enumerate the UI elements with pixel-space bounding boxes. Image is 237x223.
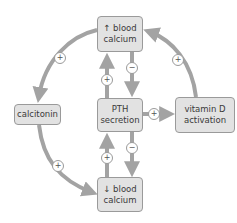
plus-badge-low-calcium-to-pth: + [101,152,113,164]
plus-icon: + [175,56,182,64]
node-low-blood-calcium-line2: calcium [104,195,137,206]
minus-icon: − [129,144,136,152]
node-vitamin-d-line1: vitamin D [184,104,225,115]
arrow-high-calcium-to-calcitonin [39,30,97,96]
plus-icon: + [151,110,158,118]
node-vitamin-d-line2: activation [184,115,226,126]
plus-badge-high-calcium-to-calcitonin: + [54,52,66,64]
plus-icon: + [55,162,62,170]
node-low-blood-calcium: ↓ blood calcium [97,177,143,212]
node-calcitonin-label: calcitonin [17,109,58,120]
arrow-vitamin-d-to-high-calcium [150,32,196,97]
plus-badge-calcitonin-to-low-calcium: + [52,160,64,172]
plus-badge-vitamin-d-to-high-calcium: + [172,54,184,66]
minus-icon: − [129,64,136,72]
node-pth-line2: secretion [100,115,139,126]
plus-icon: + [57,54,64,62]
arrow-calcitonin-to-low-calcium [39,125,91,192]
node-high-blood-calcium-line2: calcium [104,34,137,45]
node-high-blood-calcium: ↑ blood calcium [97,16,143,52]
minus-badge-high-calcium-to-pth: − [126,62,138,74]
node-high-blood-calcium-line1: ↑ blood [103,23,136,34]
minus-badge-pth-to-low-calcium: − [126,142,138,154]
node-pth-line1: PTH [112,104,129,115]
plus-badge-pth-to-high-calcium: + [101,74,113,86]
plus-badge-pth-to-vitamin-d: + [148,108,160,120]
plus-icon: + [104,154,111,162]
node-calcitonin: calcitonin [14,104,61,125]
node-vitamin-d-activation: vitamin D activation [175,97,235,133]
node-low-blood-calcium-line1: ↓ blood [103,184,136,195]
node-pth-secretion: PTH secretion [97,98,143,132]
plus-icon: + [104,76,111,84]
